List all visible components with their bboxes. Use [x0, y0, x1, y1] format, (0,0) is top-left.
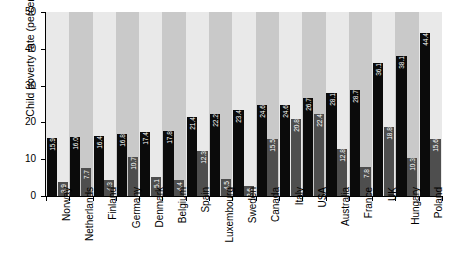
- y-tick: [41, 86, 46, 87]
- bar-value-label: 7.7: [83, 170, 90, 179]
- bar-value-label: 15.9: [49, 138, 56, 150]
- y-tick: [41, 49, 46, 50]
- x-category-label-netherlands: Netherlands: [85, 187, 95, 267]
- x-axis-line: [45, 196, 443, 197]
- bar-value-label: 17.4: [142, 132, 149, 144]
- x-category-label-norway: Norway: [62, 187, 72, 267]
- y-axis-line: [45, 12, 46, 197]
- x-category-label-australia: Australia: [341, 187, 351, 267]
- bar-italy-after: 20.8: [291, 119, 301, 196]
- y-tick-label: 50: [10, 7, 36, 17]
- bar-value-label: 17.8: [165, 131, 172, 143]
- bar-usa-after: 22.4: [314, 114, 324, 196]
- bar-poland-before: 44.4: [420, 33, 430, 196]
- x-category-label-italy: Italy: [295, 187, 305, 267]
- bar-value-label: 38.1: [398, 56, 405, 68]
- bar-sweden-before: 23.4: [233, 110, 243, 196]
- bar-value-label: 28.1: [328, 93, 335, 105]
- bar-value-label: 10.7: [129, 157, 136, 169]
- y-tick: [41, 122, 46, 123]
- bar-value-label: 23.4: [235, 110, 242, 122]
- bar-value-label: 16.4: [95, 136, 102, 148]
- y-tick: [41, 159, 46, 160]
- bar-norway-before: 15.9: [47, 138, 57, 197]
- x-category-label-luxembourg: Luxembourg: [225, 187, 235, 267]
- bar-value-label: 7.8: [362, 169, 369, 178]
- bar-uk-before: 36.1: [373, 63, 383, 196]
- bar-value-label: 44.4: [421, 33, 428, 45]
- bar-value-label: 12.8: [339, 149, 346, 161]
- x-tick: [46, 196, 47, 201]
- x-category-label-finland: Finland: [108, 187, 118, 267]
- bar-uk-after: 18.8: [384, 127, 394, 196]
- x-category-label-poland: Poland: [434, 187, 444, 267]
- y-tick-label: 10: [10, 154, 36, 164]
- y-tick-label: 30: [10, 81, 36, 91]
- bar-value-label: 18.8: [385, 127, 392, 139]
- x-category-label-denmark: Denmark: [155, 187, 165, 267]
- bar-value-label: 16.0: [72, 137, 79, 149]
- bar-value-label: 24.6: [258, 106, 265, 118]
- bar-value-label: 22.2: [212, 115, 219, 127]
- bar-value-label: 20.8: [292, 120, 299, 132]
- bar-value-label: 12.3: [199, 151, 206, 163]
- bar-value-label: 22.4: [315, 114, 322, 126]
- bar-value-label: 28.7: [351, 91, 358, 103]
- bar-italy-before: 24.6: [280, 105, 290, 196]
- x-category-label-france: France: [364, 187, 374, 267]
- bar-hungary-before: 38.1: [396, 56, 406, 196]
- x-category-label-belgium: Belgium: [178, 187, 188, 267]
- y-tick-label: 0: [10, 191, 36, 201]
- x-category-label-canada: Canada: [271, 187, 281, 267]
- bar-australia-before: 28.1: [326, 93, 336, 196]
- bar-value-label: 24.6: [281, 106, 288, 118]
- bar-value-label: 15.6: [432, 139, 439, 151]
- bar-france-before: 28.7: [350, 90, 360, 196]
- x-category-label-germany: Germany: [132, 187, 142, 267]
- bar-value-label: 26.7: [305, 98, 312, 110]
- bar-germany-before: 16.8: [117, 134, 127, 196]
- y-tick-label: 40: [10, 44, 36, 54]
- bar-canada-before: 24.6: [257, 105, 267, 196]
- plot-area: 15.93.916.07.716.44.316.810.717.45.117.8…: [46, 12, 442, 196]
- y-tick-label: 20: [10, 117, 36, 127]
- child-poverty-bar-chart: Child poverty rate (percent) 15.93.916.0…: [0, 0, 449, 273]
- x-category-label-sweden: Sweden: [248, 187, 258, 267]
- bar-value-label: 16.8: [118, 134, 125, 146]
- bar-value-label: 15.5: [269, 139, 276, 151]
- bar-value-label: 21.4: [188, 118, 195, 130]
- bar-finland-before: 16.4: [94, 136, 104, 196]
- x-category-label-spain: Spain: [201, 187, 211, 267]
- bar-luxembourg-before: 22.2: [210, 114, 220, 196]
- x-category-label-hungary: Hungary: [411, 187, 421, 267]
- bar-spain-before: 21.4: [187, 117, 197, 196]
- y-tick: [41, 12, 46, 13]
- x-category-label-uk: UK: [388, 187, 398, 267]
- bar-value-label: 10.3: [409, 158, 416, 170]
- bar-value-label: 36.1: [375, 63, 382, 75]
- x-category-label-usa: USA: [318, 187, 328, 267]
- bar-usa-before: 26.7: [303, 98, 313, 196]
